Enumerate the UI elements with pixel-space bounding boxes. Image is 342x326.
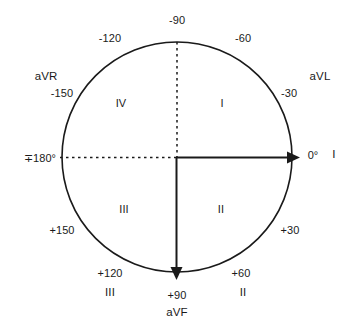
quadrant-label-IV: IV — [116, 98, 127, 109]
degree-label-zero: 0° — [308, 150, 319, 161]
degree-label-minus-90: -90 — [169, 15, 185, 26]
degree-label-plus-90: +90 — [168, 290, 187, 301]
lead-label-I: I — [332, 149, 335, 161]
quadrant-label-II: II — [218, 204, 224, 215]
degree-label-minus-60: -60 — [235, 33, 251, 44]
degree-label-plus-150: +150 — [49, 225, 74, 236]
quadrant-label-I: I — [220, 98, 223, 109]
lead-label-II: II — [240, 287, 247, 299]
degree-label-plus-120: +120 — [97, 268, 122, 279]
hexaxial-reference-diagram: -90 -120 -60 -150 -30 ∓180° 0° +150 +30 … — [0, 0, 342, 326]
lead-label-aVF: aVF — [166, 307, 187, 319]
degree-label-plus-30: +30 — [281, 225, 300, 236]
lead-label-aVR: aVR — [35, 71, 58, 83]
degree-label-minus-120: -120 — [99, 33, 121, 44]
lead-label-III: III — [105, 287, 115, 299]
degree-label-minus-150: -150 — [51, 88, 73, 99]
degree-label-180: ∓180° — [24, 153, 56, 164]
quadrant-label-III: III — [119, 204, 128, 215]
degree-label-minus-30: -30 — [281, 88, 297, 99]
lead-label-aVL: aVL — [310, 71, 331, 83]
degree-label-plus-60: +60 — [232, 268, 251, 279]
lead-I-arrowhead-icon — [287, 152, 300, 164]
aVF-arrowhead-icon — [171, 267, 183, 280]
